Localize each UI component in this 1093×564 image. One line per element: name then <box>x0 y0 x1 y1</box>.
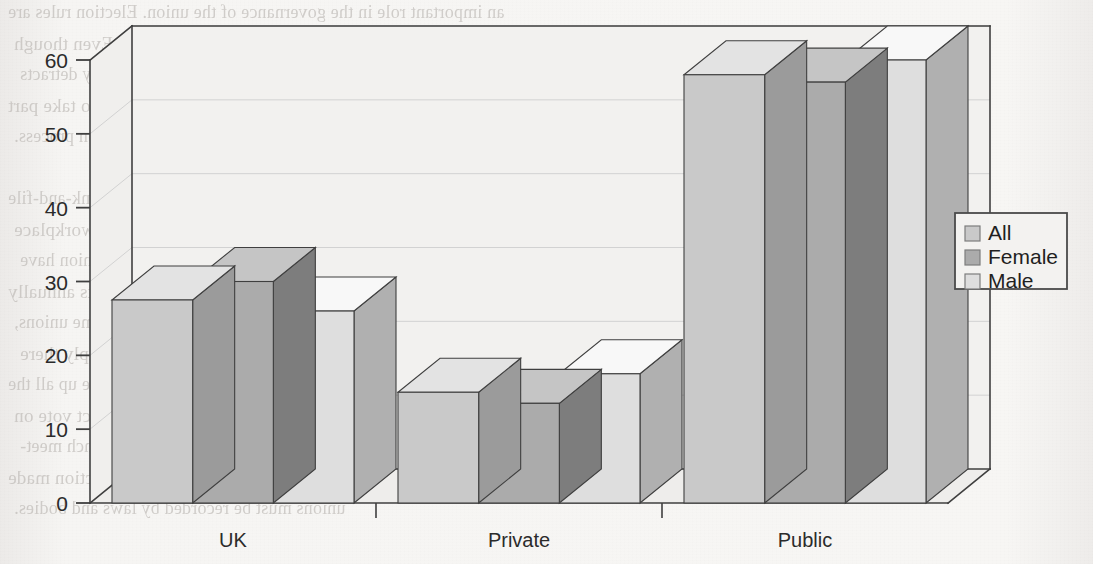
y-axis-tick-label: 0 <box>56 492 68 515</box>
y-axis-tick-label: 40 <box>45 197 68 220</box>
legend-swatch-female <box>965 250 980 265</box>
bar-side-face <box>273 248 315 504</box>
y-axis-tick-label: 30 <box>45 271 68 294</box>
bar-front-face <box>398 392 479 503</box>
chart-canvas: 0102030405060UKPrivatePublicAllFemaleMal… <box>0 0 1093 564</box>
bar-front-face <box>112 300 193 503</box>
bar-chart: 0102030405060UKPrivatePublicAllFemaleMal… <box>0 0 1093 564</box>
bar-front-face <box>684 75 765 503</box>
x-axis-category-label: UK <box>219 529 247 551</box>
legend-label-all: All <box>988 221 1011 244</box>
legend-swatch-male <box>965 274 980 289</box>
y-axis-tick-label: 50 <box>45 123 68 146</box>
bar-side-face <box>193 266 235 503</box>
bar-private-all <box>398 358 521 503</box>
legend-label-male: Male <box>988 269 1034 292</box>
bar-public-all <box>684 41 807 503</box>
scanned-chart-page: an important role in the governance of t… <box>0 0 1093 564</box>
x-axis-category-label: Public <box>778 529 832 551</box>
y-axis-tick-label: 10 <box>45 418 68 441</box>
y-axis-tick-label: 60 <box>45 49 68 72</box>
bar-side-face <box>765 41 807 503</box>
y-axis-tick-label: 20 <box>45 344 68 367</box>
bar-side-face <box>354 277 396 503</box>
bar-uk-all <box>112 266 235 503</box>
x-axis-category-label: Private <box>488 529 550 551</box>
legend-label-female: Female <box>988 245 1058 268</box>
legend-swatch-all <box>965 226 980 241</box>
bar-side-face <box>845 48 887 503</box>
chart-legend: AllFemaleMale <box>955 213 1067 292</box>
